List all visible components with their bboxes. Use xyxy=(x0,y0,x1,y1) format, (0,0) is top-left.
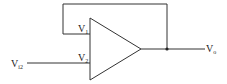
op-amp-triangle xyxy=(90,18,141,80)
label-v1-sub: 1 xyxy=(85,29,88,35)
label-vo-sub: o xyxy=(213,49,216,55)
circuit-drawing xyxy=(0,0,227,84)
label-v1: V1 xyxy=(78,24,88,35)
op-amp-diagram: V1 V2 Vi2 Vo xyxy=(0,0,227,84)
junction-dot xyxy=(165,47,168,50)
label-vi2-sub: i2 xyxy=(18,64,23,70)
label-vo: Vo xyxy=(206,44,216,55)
label-v2-sub: 2 xyxy=(85,58,88,64)
label-vi2: Vi2 xyxy=(11,59,23,70)
label-v2: V2 xyxy=(78,53,88,64)
